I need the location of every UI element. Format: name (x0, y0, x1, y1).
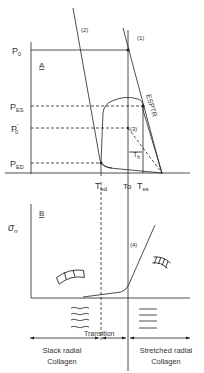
x-label-tes: Tes (137, 181, 149, 192)
panel-b-labels: B σrr (4) Transition Slack radial Collag… (8, 209, 193, 366)
transition-label: Transition (84, 330, 115, 337)
curve-4-label: (4) (130, 242, 137, 248)
stretched-fiber-icon (151, 255, 171, 269)
line-1-label: (1) (137, 35, 144, 41)
y-label-pes: PES (10, 102, 24, 113)
slack-collagen-wavy-lines (71, 307, 89, 328)
panel-a-points (100, 48, 145, 164)
panel-b-label: B (39, 209, 44, 218)
x-label-t0: To (123, 182, 132, 191)
point-pes (141, 104, 144, 107)
point-3 (127, 127, 129, 129)
slack-region-label-line2: Collagen (47, 357, 77, 366)
stress-curve-4 (83, 225, 155, 297)
panel-b (30, 182, 190, 340)
stretched-collagen-lines (139, 309, 157, 328)
point-p0 (126, 48, 129, 51)
diagram-canvas: P0 A PES P'0 PED Ted To Tes (2) (1) (3) … (0, 0, 204, 373)
esptr-label: ESPTR (145, 93, 159, 117)
panel-a-labels: P0 A PES P'0 PED Ted To Tes (2) (1) (3) … (10, 27, 159, 192)
y-label-sigma-rr: σrr (8, 222, 19, 234)
panel-a-label: A (39, 61, 45, 70)
slack-fiber-icon (56, 267, 86, 284)
point-3-label: (3) (130, 126, 137, 132)
line-2-label: (2) (81, 27, 88, 33)
point-ped (100, 162, 103, 165)
slack-region-label-line1: Slack radial (43, 346, 82, 355)
y-label-p0prime: P'0 (11, 123, 18, 135)
y-label-p0: P0 (12, 46, 21, 57)
y-label-ped: PED (10, 159, 24, 170)
stretched-region-label-line2: Collagen (151, 357, 181, 366)
stretched-region-label-line1: Stretched radial (140, 346, 193, 355)
